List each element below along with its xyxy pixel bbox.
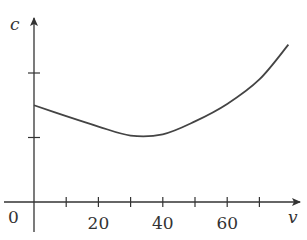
x-tick-label: 60 <box>216 213 238 233</box>
origin-label: 0 <box>8 207 19 227</box>
x-axis-label: v <box>288 207 298 227</box>
x-tick-labels: 204060 <box>88 213 238 233</box>
chart: 204060 0 c v <box>0 0 307 240</box>
curve-c-of-v <box>34 45 288 137</box>
x-tick-label: 40 <box>152 213 174 233</box>
y-axis-label: c <box>10 14 20 34</box>
x-tick-label: 20 <box>88 213 110 233</box>
